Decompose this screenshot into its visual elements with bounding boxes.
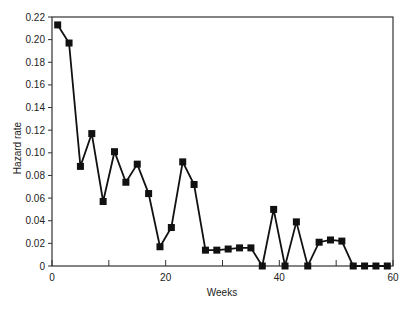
x-axis-ticks: 0204060 [49,260,399,283]
data-point-marker [384,263,391,270]
data-point-marker [350,263,357,270]
y-tick-label: 0.06 [26,193,46,204]
data-point-marker [122,179,129,186]
y-tick-label: 0.16 [26,79,46,90]
y-tick-label: 0 [39,261,45,272]
data-point-marker [111,148,118,155]
x-tick-label: 60 [387,272,399,283]
series-line [58,25,388,266]
data-point-marker [259,263,266,270]
data-point-marker [179,158,186,165]
y-axis-ticks: 00.020.040.060.080.100.120.140.160.180.2… [26,12,52,272]
plot-frame [52,17,393,266]
y-tick-label: 0.10 [26,147,46,158]
y-tick-label: 0.22 [26,12,46,23]
data-point-marker [66,40,73,47]
data-point-marker [236,244,243,251]
data-point-marker [293,218,300,225]
y-tick-label: 0.08 [26,170,46,181]
data-point-marker [304,263,311,270]
data-point-marker [372,263,379,270]
data-point-marker [191,181,198,188]
x-tick-label: 20 [160,272,172,283]
data-point-marker [316,239,323,246]
y-tick-label: 0.02 [26,238,46,249]
data-point-marker [270,206,277,213]
x-tick-label: 40 [274,272,286,283]
y-tick-label: 0.04 [26,215,46,226]
hazard-rate-chart: 00.020.040.060.080.100.120.140.160.180.2… [0,0,407,310]
data-point-marker [338,238,345,245]
y-tick-label: 0.12 [26,125,46,136]
data-point-marker [100,198,107,205]
data-point-marker [225,246,232,253]
data-point-marker [361,263,368,270]
data-point-marker [77,163,84,170]
y-tick-label: 0.14 [26,102,46,113]
data-point-marker [156,243,163,250]
data-point-marker [168,224,175,231]
data-point-marker [145,190,152,197]
data-point-marker [202,247,209,254]
data-point-marker [247,244,254,251]
x-axis-label: Weeks [207,287,237,298]
data-series [54,21,391,269]
data-point-marker [282,263,289,270]
data-point-marker [213,247,220,254]
y-tick-label: 0.20 [26,34,46,45]
data-point-marker [327,236,334,243]
data-point-marker [54,21,61,28]
data-point-marker [134,161,141,168]
x-tick-label: 0 [49,272,55,283]
data-point-marker [88,130,95,137]
y-axis-label: Hazard rate [12,121,23,174]
y-tick-label: 0.18 [26,57,46,68]
